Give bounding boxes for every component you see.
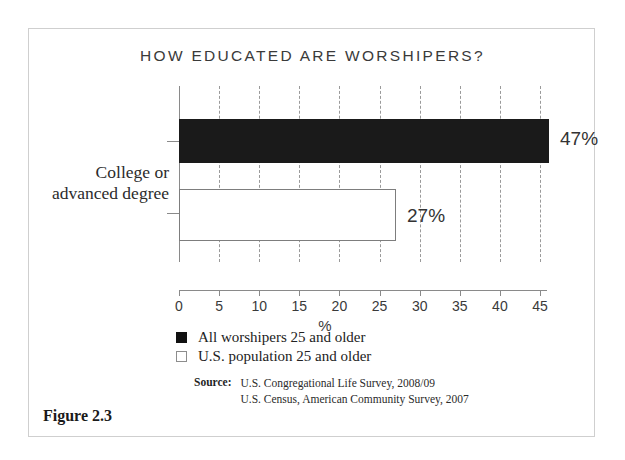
- x-tick-label-15: 15: [292, 298, 308, 314]
- x-tick-25: [380, 290, 381, 296]
- source-lines: U.S. Congregational Life Survey, 2008/09…: [240, 376, 468, 407]
- gridline-35: [460, 86, 461, 262]
- y-category-line-1: College or: [39, 162, 169, 183]
- x-tick-0: [179, 290, 180, 296]
- gridline-40: [500, 86, 501, 262]
- filled-square-icon: [176, 332, 187, 343]
- hollow-square-icon: [176, 351, 187, 362]
- figure-frame: HOW EDUCATED ARE WORSHIPERS? College or …: [28, 28, 595, 437]
- source-block: Source: U.S. Congregational Life Survey,…: [194, 376, 469, 407]
- figure-caption: Figure 2.3: [43, 407, 112, 425]
- legend-label-all-worshipers: All worshipers 25 and older: [198, 329, 365, 346]
- bar-us-population[interactable]: [179, 189, 396, 241]
- x-tick-label-35: 35: [452, 298, 468, 314]
- x-tick-40: [500, 290, 501, 296]
- x-tick-20: [339, 290, 340, 296]
- x-tick-label-0: 0: [175, 298, 183, 314]
- chart-legend: All worshipers 25 and older U.S. populat…: [176, 329, 371, 367]
- source-label: Source:: [194, 376, 231, 388]
- x-tick-30: [420, 290, 421, 296]
- y-category-line-2: advanced degree: [39, 183, 169, 204]
- legend-item-us-population[interactable]: U.S. population 25 and older: [176, 348, 371, 365]
- legend-label-us-population: U.S. population 25 and older: [198, 348, 371, 365]
- x-tick-label-10: 10: [251, 298, 267, 314]
- y-tick-mark-series-1: [167, 141, 179, 142]
- x-tick-label-5: 5: [215, 298, 223, 314]
- x-tick-label-40: 40: [492, 298, 508, 314]
- x-tick-35: [460, 290, 461, 296]
- x-axis-line: [179, 290, 547, 291]
- plot-area: 47% 27%: [179, 86, 540, 262]
- legend-item-all-worshipers[interactable]: All worshipers 25 and older: [176, 329, 371, 346]
- bar-all-worshipers[interactable]: [179, 119, 549, 163]
- bar-value-all-worshipers: 47%: [560, 128, 598, 150]
- x-tick-label-20: 20: [332, 298, 348, 314]
- y-axis-category-label: College or advanced degree: [39, 162, 169, 205]
- x-tick-label-30: 30: [412, 298, 428, 314]
- source-line-2: U.S. Census, American Community Survey, …: [240, 392, 468, 408]
- gridline-30: [420, 86, 421, 262]
- x-tick-5: [219, 290, 220, 296]
- x-tick-10: [259, 290, 260, 296]
- y-tick-mark-series-2: [167, 213, 179, 214]
- source-line-1: U.S. Congregational Life Survey, 2008/09: [240, 376, 468, 392]
- x-tick-15: [299, 290, 300, 296]
- x-tick-label-45: 45: [532, 298, 548, 314]
- chart-title: HOW EDUCATED ARE WORSHIPERS?: [29, 47, 596, 65]
- bar-value-us-population: 27%: [407, 205, 445, 227]
- x-tick-label-25: 25: [372, 298, 388, 314]
- x-tick-45: [540, 290, 541, 296]
- gridline-45: [540, 86, 541, 262]
